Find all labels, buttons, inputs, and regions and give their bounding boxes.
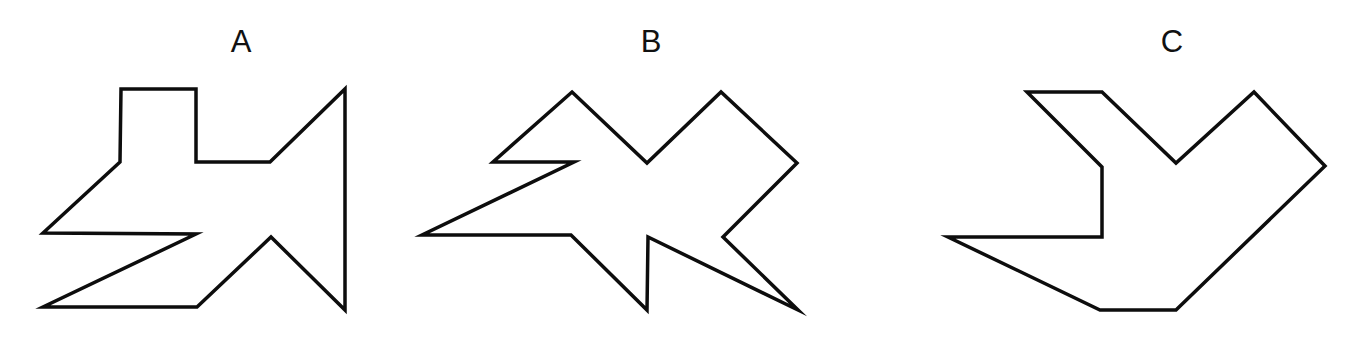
label-b: B: [641, 26, 662, 57]
shape-b: [422, 92, 798, 310]
figure-canvas: [0, 0, 1362, 339]
shape-c: [948, 92, 1325, 310]
label-a: A: [231, 26, 252, 57]
label-c: C: [1161, 26, 1183, 57]
shape-a: [43, 89, 345, 310]
